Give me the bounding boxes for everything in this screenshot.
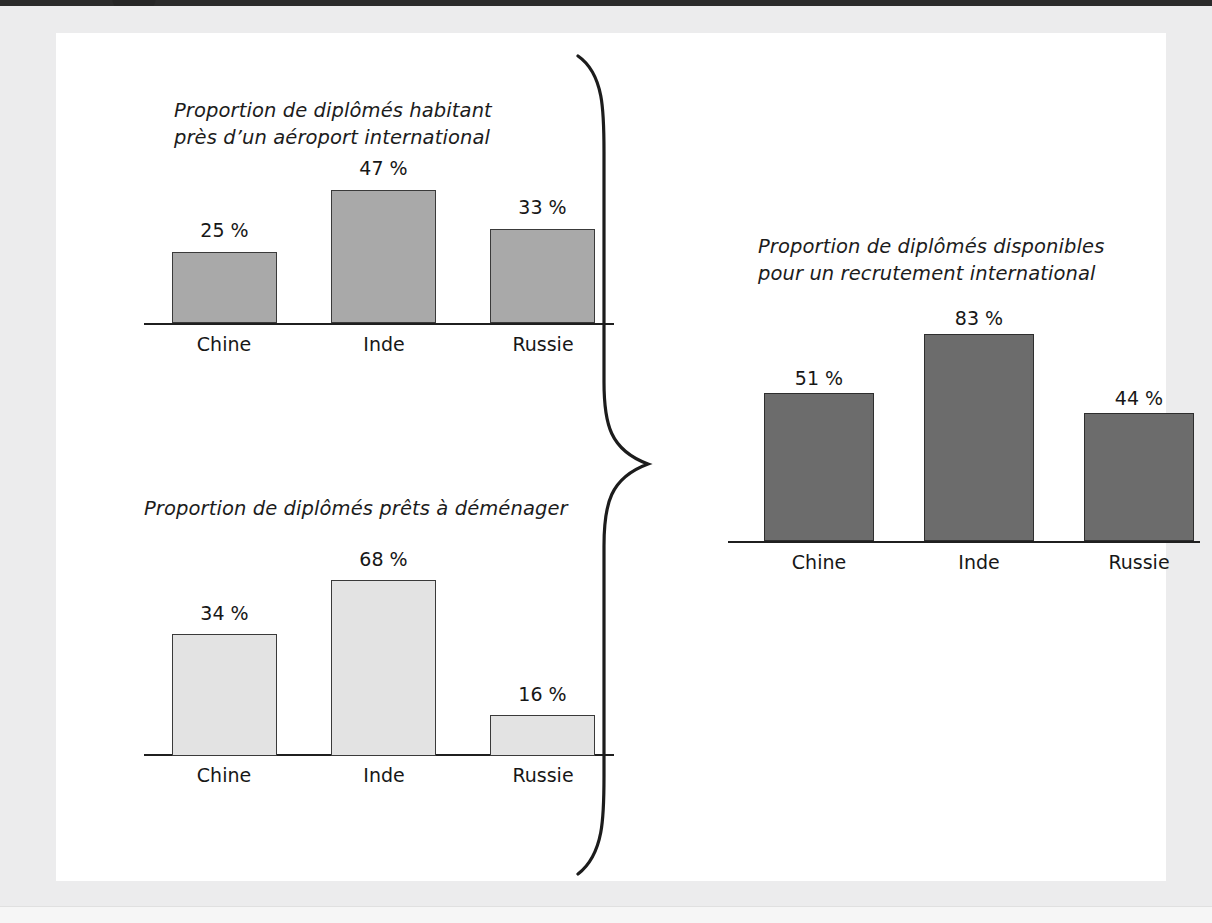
chart-airport: Proportion de diplômés habitant près d’u… [144,97,614,379]
cat-label-airport-russie: Russie [480,333,606,355]
bar-relocate-russie [490,715,595,756]
chart-relocate-title: Proportion de diplômés prêts à déménager [144,495,634,522]
bar-recruit-russie [1084,413,1194,541]
bar-value-airport-russie: 33 % [490,196,595,218]
chart-airport-title: Proportion de diplômés habitant près d’u… [174,97,614,151]
bar-value-recruit-inde: 83 % [924,307,1034,329]
bar-value-relocate-russie: 16 % [490,683,595,705]
bar-relocate-chine [172,634,277,756]
chart-airport-axis [144,323,614,325]
cat-label-recruit-russie: Russie [1074,551,1204,573]
cat-label-recruit-inde: Inde [918,551,1040,573]
cat-label-airport-chine: Chine [164,333,284,355]
chart-airport-plot: 25 % Chine 47 % Inde 33 % Russie [144,169,614,379]
cat-label-relocate-chine: Chine [164,764,284,786]
cat-label-airport-inde: Inde [324,333,444,355]
bar-value-relocate-inde: 68 % [331,548,436,570]
figure-panel: Proportion de diplômés habitant près d’u… [56,33,1166,881]
bar-airport-chine [172,252,277,323]
bar-airport-inde [331,190,436,323]
cat-label-recruit-chine: Chine [756,551,882,573]
bar-recruit-inde [924,334,1034,541]
bar-value-recruit-russie: 44 % [1084,387,1194,409]
chart-recruit-plot: 51 % Chine 83 % Inde 44 % Russie [728,309,1208,599]
chart-relocate: Proportion de diplômés prêts à déménager… [144,495,634,810]
chart-recruit-title: Proportion de diplômés disponibles pour … [758,233,1208,287]
bar-relocate-inde [331,580,436,756]
chart-recruit: Proportion de diplômés disponibles pour … [728,233,1208,599]
bar-value-recruit-chine: 51 % [764,367,874,389]
cat-label-relocate-russie: Russie [480,764,606,786]
page-bottom-rule [0,906,1212,923]
bar-value-airport-chine: 25 % [172,219,277,241]
chart-relocate-plot: 34 % Chine 68 % Inde 16 % Russie [144,538,634,810]
cat-label-relocate-inde: Inde [324,764,444,786]
chart-recruit-axis [728,541,1200,543]
bar-value-relocate-chine: 34 % [172,602,277,624]
bar-recruit-chine [764,393,874,541]
bar-value-airport-inde: 47 % [331,157,436,179]
bar-airport-russie [490,229,595,323]
